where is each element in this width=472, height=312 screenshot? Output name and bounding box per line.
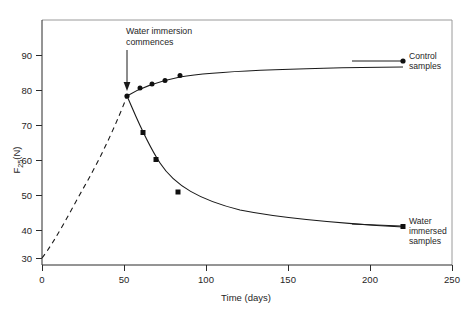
x-tick-label-0: 0	[39, 274, 44, 285]
curve-water-immersed-samples	[127, 96, 403, 227]
series-label-water-line-3: samples	[409, 236, 441, 246]
y-axis-tick-labels: 90 80 70 60 50 40 30	[21, 50, 32, 264]
chart-canvas: 90 80 70 60 50 40 30 0 50 100 150 200 25…	[0, 0, 472, 312]
x-tick-label-100: 100	[198, 274, 214, 285]
series-label-control-line-1: Control	[409, 51, 437, 61]
svg-text:F25(N): F25(N)	[11, 146, 25, 173]
x-tick-label-50: 50	[119, 274, 130, 285]
series-label-control-line-2: samples	[409, 61, 441, 71]
x-axis-title: Time (days)	[221, 292, 271, 303]
chart-figure: 90 80 70 60 50 40 30 0 50 100 150 200 25…	[0, 0, 472, 312]
marker-water-endpoint	[401, 224, 406, 229]
curve-control-samples	[127, 67, 403, 96]
y-tick-label-70: 70	[21, 120, 32, 131]
series-label-control-samples: Control samples	[352, 51, 441, 71]
x-axis-tick-labels: 0 50 100 150 200 250	[39, 274, 460, 285]
x-tick-label-150: 150	[280, 274, 296, 285]
series-label-water-line-2: immersed	[409, 226, 447, 236]
marker-water-1	[141, 130, 146, 135]
annotation-line-2: commences	[126, 37, 174, 47]
marker-control-3	[163, 78, 168, 83]
x-tick-label-250: 250	[444, 274, 460, 285]
series-label-water-immersed-samples: Water immersed samples	[352, 216, 447, 246]
x-axis-ticks	[43, 265, 453, 271]
annotation-line-1: Water immersion	[126, 26, 192, 36]
marker-junction-point	[124, 93, 129, 98]
series-label-water-line-1: Water	[409, 216, 432, 226]
curve-pre-immersion-dashed	[42, 96, 127, 258]
y-tick-label-40: 40	[21, 225, 32, 236]
y-axis-title-subscript: 25	[16, 160, 25, 168]
marker-water-2	[154, 157, 159, 162]
annotation-water-immersion-commences: Water immersion commences	[124, 26, 193, 91]
y-axis-title: F25(N)	[11, 146, 25, 173]
marker-control-1	[138, 86, 143, 91]
y-tick-label-50: 50	[21, 190, 32, 201]
x-tick-label-200: 200	[362, 274, 378, 285]
marker-water-3	[176, 190, 181, 195]
plot-frame	[42, 20, 452, 265]
y-axis-ticks	[36, 56, 42, 259]
marker-control-2	[150, 82, 155, 87]
y-axis-title-unit: (N)	[11, 146, 22, 159]
y-tick-label-30: 30	[21, 253, 32, 264]
annotation-arrow-head	[124, 82, 131, 91]
y-tick-label-80: 80	[21, 85, 32, 96]
marker-control-4	[178, 73, 183, 78]
y-tick-label-90: 90	[21, 50, 32, 61]
marker-control-endpoint	[400, 58, 405, 63]
